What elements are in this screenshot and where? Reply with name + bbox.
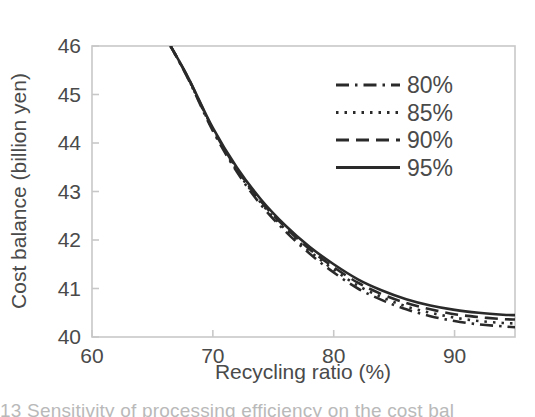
- figure-caption: 13 Sensitivity of processing efficiency …: [0, 398, 535, 417]
- series-line-85pct: [171, 46, 515, 323]
- y-tick-label: 44: [58, 131, 82, 154]
- y-tick-label: 41: [58, 277, 81, 300]
- legend-label-90pct: 90%: [407, 127, 453, 153]
- y-tick-label: 43: [58, 180, 81, 203]
- x-tick-label: 60: [80, 344, 103, 367]
- legend-label-95pct: 95%: [407, 155, 453, 181]
- y-tick-label: 45: [58, 83, 81, 106]
- chart-legend: 80%85%90%95%: [336, 72, 453, 181]
- series-line-90pct: [171, 46, 515, 320]
- legend-label-85pct: 85%: [407, 100, 453, 126]
- y-axis-title: Cost balance (billion yen): [7, 73, 30, 309]
- y-tick-label: 42: [58, 228, 81, 251]
- figure-container: 40414243444546 60708090 80%85%90%95% Rec…: [0, 0, 535, 417]
- y-tick-label: 40: [58, 325, 81, 348]
- y-tick-label: 46: [58, 34, 81, 57]
- x-tick-label: 90: [443, 344, 466, 367]
- data-series-group: [171, 46, 515, 327]
- series-line-80pct: [171, 46, 515, 327]
- legend-label-80pct: 80%: [407, 72, 453, 98]
- sensitivity-line-chart: 40414243444546 60708090 80%85%90%95% Rec…: [0, 0, 535, 417]
- x-axis-title: Recycling ratio (%): [215, 360, 391, 383]
